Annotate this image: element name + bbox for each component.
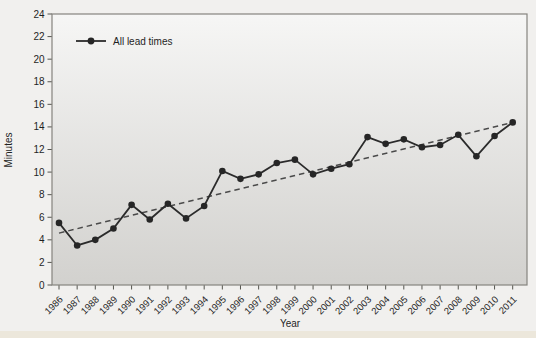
y-tick-label: 16	[33, 99, 45, 110]
lead-time-line-chart: 024681012141618202224 198619871988198919…	[0, 0, 536, 338]
legend-label: All lead times	[113, 36, 172, 47]
y-tick-label: 6	[39, 212, 45, 223]
data-point	[509, 119, 516, 126]
data-point	[237, 176, 244, 183]
data-point	[74, 242, 81, 249]
data-point	[92, 237, 99, 244]
data-point	[183, 215, 190, 222]
data-point	[419, 144, 426, 151]
data-point	[364, 134, 371, 141]
y-tick-label: 20	[33, 54, 45, 65]
data-point	[401, 136, 408, 143]
y-tick-label: 14	[33, 121, 45, 132]
legend-marker-dot	[88, 38, 95, 45]
data-point	[255, 171, 262, 178]
data-point	[310, 171, 317, 178]
data-point	[382, 141, 389, 148]
y-tick-label: 24	[33, 9, 45, 20]
data-point	[201, 203, 208, 210]
y-tick-label: 8	[39, 189, 45, 200]
plot-area	[52, 14, 527, 285]
data-point	[56, 220, 63, 227]
data-point	[165, 200, 172, 207]
x-axis-title: Year	[280, 318, 301, 329]
data-point	[491, 133, 498, 140]
data-point	[128, 202, 135, 209]
data-point	[146, 216, 153, 223]
data-point	[346, 161, 353, 168]
y-tick-label: 2	[39, 257, 45, 268]
data-point	[455, 132, 462, 139]
y-tick-label: 22	[33, 31, 45, 42]
y-tick-label: 12	[33, 144, 45, 155]
y-tick-label: 4	[39, 234, 45, 245]
y-axis-title: Minutes	[3, 132, 14, 167]
y-tick-label: 18	[33, 76, 45, 87]
data-point	[473, 153, 480, 160]
data-point	[292, 156, 299, 163]
tornado-lead-time-figure: 024681012141618202224 198619871988198919…	[0, 0, 536, 338]
data-point	[273, 160, 280, 167]
page-edge-strip	[0, 331, 536, 338]
y-tick-label: 0	[39, 280, 45, 291]
data-point	[219, 168, 226, 175]
y-tick-label: 10	[33, 167, 45, 178]
data-point	[110, 225, 117, 232]
data-point	[328, 165, 335, 172]
data-point	[437, 142, 444, 149]
